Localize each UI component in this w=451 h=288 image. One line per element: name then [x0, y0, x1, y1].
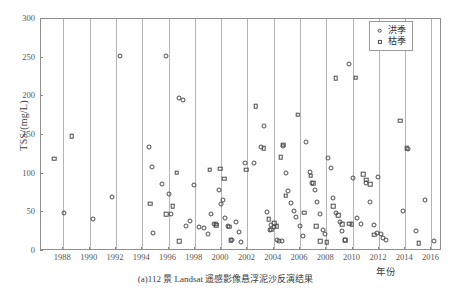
data-point-flood-season [160, 182, 165, 187]
data-point-dry-season [269, 228, 274, 233]
x-tick-mark [430, 247, 431, 250]
x-tick-label: 2014 [396, 252, 413, 262]
gridline-vertical [300, 19, 301, 249]
data-point-dry-season [222, 177, 227, 182]
data-point-dry-season [177, 239, 182, 244]
y-tick-mark [40, 250, 43, 251]
data-point-flood-season [239, 240, 244, 245]
gridline-vertical [379, 19, 380, 249]
x-tick-label: 1998 [185, 252, 202, 262]
x-tick-mark [89, 247, 90, 250]
legend-item-flood-season: 洪季 [375, 25, 406, 36]
data-point-flood-season [340, 229, 345, 234]
data-point-dry-season [353, 75, 358, 80]
data-point-flood-season [400, 209, 405, 214]
data-point-flood-season [223, 215, 228, 220]
data-point-flood-season [169, 212, 174, 217]
data-point-dry-season [281, 143, 286, 148]
data-point-dry-season [336, 213, 341, 218]
gridline-vertical [116, 19, 117, 249]
data-point-dry-season [274, 224, 279, 229]
x-tick-label: 1996 [159, 252, 176, 262]
data-point-flood-season [183, 224, 188, 229]
data-point-flood-season [216, 188, 221, 193]
data-point-dry-season [318, 239, 323, 244]
gridline-vertical [90, 19, 91, 249]
data-point-dry-season [343, 238, 348, 243]
y-tick-mark [40, 211, 43, 212]
data-point-flood-season [312, 187, 317, 192]
data-point-flood-season [164, 53, 169, 58]
x-tick-label: 2010 [343, 252, 360, 262]
data-point-flood-season [243, 160, 248, 165]
x-tick-mark [299, 247, 300, 250]
data-point-flood-season [283, 170, 288, 175]
data-point-flood-season [423, 197, 428, 202]
x-tick-label: 2006 [291, 252, 308, 262]
data-point-flood-season [303, 139, 308, 144]
x-tick-label: 1992 [106, 252, 123, 262]
x-tick-label: 1988 [54, 252, 71, 262]
data-point-flood-season [300, 234, 305, 239]
data-point-flood-season [346, 62, 351, 67]
data-point-flood-season [291, 209, 296, 214]
x-tick-mark [141, 247, 142, 250]
y-tick-label: 50 [9, 206, 35, 216]
x-tick-mark [378, 247, 379, 250]
data-point-dry-season [302, 211, 307, 216]
data-point-dry-season [324, 240, 329, 245]
data-point-flood-season [197, 224, 202, 229]
y-tick-label: 100 [9, 168, 35, 178]
data-point-dry-season [207, 167, 212, 172]
data-point-flood-season [414, 228, 419, 233]
data-point-flood-season [208, 211, 213, 216]
data-point-dry-season [69, 134, 74, 139]
y-tick-mark [40, 173, 43, 174]
x-tick-mark [325, 247, 326, 250]
plot-axes [40, 18, 441, 250]
data-point-flood-season [151, 230, 156, 235]
data-point-flood-season [110, 195, 115, 200]
x-tick-mark [404, 247, 405, 250]
data-point-flood-season [261, 124, 266, 129]
data-point-dry-season [174, 170, 179, 175]
data-point-flood-season [181, 97, 186, 102]
y-tick-mark [40, 57, 43, 58]
data-point-flood-season [318, 211, 323, 216]
data-point-dry-season [349, 222, 354, 227]
gridline-vertical [326, 19, 327, 249]
y-tick-label: 250 [9, 52, 35, 62]
legend-label-dry-season: 枯季 [388, 36, 406, 47]
data-point-flood-season [323, 231, 328, 236]
circle-icon [375, 26, 384, 35]
data-point-dry-season [334, 76, 339, 81]
data-point-dry-season [295, 112, 300, 117]
y-tick-mark [40, 134, 43, 135]
x-tick-label: 1994 [133, 252, 150, 262]
data-point-dry-season [253, 104, 258, 109]
x-tick-label: 2008 [317, 252, 334, 262]
data-point-dry-season [314, 224, 319, 229]
x-tick-label: 2016 [422, 252, 439, 262]
data-point-flood-season [149, 165, 154, 170]
gridline-vertical [353, 19, 354, 249]
gridline-vertical [221, 19, 222, 249]
legend-label-flood-season: 洪季 [388, 25, 406, 36]
data-point-dry-season [309, 173, 314, 178]
data-point-flood-season [147, 145, 152, 150]
x-tick-mark [220, 247, 221, 250]
data-point-flood-season [432, 239, 437, 244]
plot-area-wrapper: TSS/(mg/L) 050100150200250300 1988199019… [0, 0, 451, 260]
x-tick-mark [62, 247, 63, 250]
data-point-flood-season [220, 197, 225, 202]
data-point-dry-season [331, 204, 336, 209]
figure-caption: (a)112 景 Landsat 遥感影像悬浮泥沙反演结果 [0, 272, 451, 285]
data-point-flood-season [371, 223, 376, 228]
data-point-flood-season [166, 192, 171, 197]
data-point-dry-season [368, 182, 373, 187]
gridline-vertical [142, 19, 143, 249]
data-point-flood-season [383, 237, 388, 242]
data-point-dry-season [261, 146, 266, 151]
gridline-vertical [405, 19, 406, 249]
data-point-dry-season [416, 241, 421, 246]
